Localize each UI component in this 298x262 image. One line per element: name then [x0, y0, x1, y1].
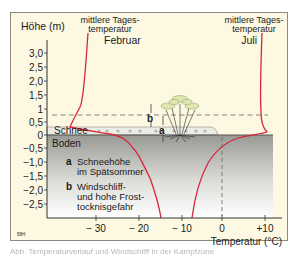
svg-text:temperatur: temperatur: [88, 24, 132, 34]
svg-text:2,0: 2,0: [29, 76, 43, 87]
marker-a-label: a: [159, 125, 165, 136]
svg-text:1,5: 1,5: [29, 90, 43, 101]
temperature-profile-diagram: b a 3,0 2,5 2,0 1,5 1 0,5 0 −0,5 −1,0 −1…: [0, 0, 298, 262]
figure-caption: Abb. Temperaturverlauf und Windschliff i…: [10, 247, 290, 256]
svg-text:3,0: 3,0: [29, 48, 43, 59]
svg-text:1: 1: [37, 104, 43, 115]
svg-text:+10: +10: [257, 223, 274, 234]
svg-text:Februar: Februar: [104, 34, 141, 46]
marker-b-label: b: [147, 113, 153, 124]
svg-text:Juli: Juli: [241, 34, 257, 46]
svg-text:0: 0: [219, 223, 225, 234]
svg-text:−1,0: −1,0: [23, 157, 43, 168]
svg-text:temperatur: temperatur: [232, 24, 276, 34]
y-axis-label: Höhe (m): [21, 20, 65, 32]
svg-text:a: a: [66, 156, 72, 167]
svg-text:b: b: [66, 181, 72, 192]
x-axis-label: Temperatur (°C): [211, 236, 282, 247]
ground-label: Boden: [52, 138, 81, 149]
svg-text:− 30: − 30: [86, 223, 106, 234]
svg-text:− 20: − 20: [129, 223, 149, 234]
svg-text:−0,5: −0,5: [23, 143, 43, 154]
svg-text:0: 0: [37, 130, 43, 141]
svg-text:− 10: − 10: [172, 223, 192, 234]
svg-text:tocknisgefahr: tocknisgefahr: [77, 201, 134, 212]
svg-text:0,5: 0,5: [29, 117, 43, 128]
svg-text:−2,5: −2,5: [23, 199, 43, 210]
svg-text:−2,0: −2,0: [23, 185, 43, 196]
credit-label: 58H: [17, 232, 25, 237]
svg-text:−1,5: −1,5: [23, 171, 43, 182]
svg-text:2,5: 2,5: [29, 62, 43, 73]
svg-text:im Spätsommer: im Spätsommer: [77, 166, 144, 177]
snow-label: Schnee: [54, 125, 88, 136]
